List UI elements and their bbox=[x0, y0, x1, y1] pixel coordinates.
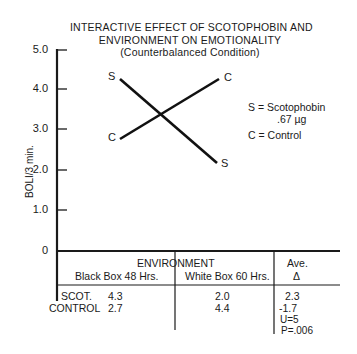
ytick-5: 5.0 bbox=[18, 43, 48, 55]
row-scot-ave: 2.3 bbox=[285, 290, 300, 302]
ytick-3: 3.0 bbox=[18, 122, 48, 134]
legend-control: C = Control bbox=[248, 129, 301, 141]
y-axis-label: BOLI/3 min. bbox=[24, 145, 35, 198]
row-scot-white: 2.0 bbox=[215, 290, 230, 302]
ytick-0: 0 bbox=[18, 244, 48, 256]
table-header-environment: ENVIRONMENT bbox=[137, 257, 215, 269]
plot-lines bbox=[0, 0, 357, 354]
marker-s-black: S bbox=[108, 70, 115, 82]
table-col-ave: Ave. bbox=[287, 257, 308, 269]
legend-scotophobin: S = Scotophobin bbox=[248, 101, 325, 113]
ytick-4: 4.0 bbox=[18, 82, 48, 94]
marker-s-white: S bbox=[221, 157, 228, 169]
ytick-1: 1.0 bbox=[18, 203, 48, 215]
stat-u: U=5 bbox=[280, 314, 299, 325]
scotophobin-line bbox=[120, 79, 217, 163]
table-col-white: White Box 60 Hrs. bbox=[185, 270, 270, 282]
row-control-black: 2.7 bbox=[108, 302, 123, 314]
table-col-black: Black Box 48 Hrs. bbox=[75, 270, 158, 282]
legend-scotophobin-dose: .67 µg bbox=[277, 113, 306, 125]
row-control-ave: -1.7 bbox=[279, 302, 297, 314]
row-scot-black: 4.3 bbox=[108, 290, 123, 302]
marker-c-white: C bbox=[224, 71, 232, 83]
row-scot-label: SCOT. bbox=[61, 290, 92, 302]
row-control-label: CONTROL bbox=[49, 302, 100, 314]
table-col-ave-delta: Δ bbox=[293, 270, 300, 282]
control-line bbox=[120, 79, 219, 139]
stat-p: P=.006 bbox=[281, 325, 313, 336]
marker-c-black: C bbox=[108, 131, 116, 143]
row-control-white: 4.4 bbox=[215, 302, 230, 314]
